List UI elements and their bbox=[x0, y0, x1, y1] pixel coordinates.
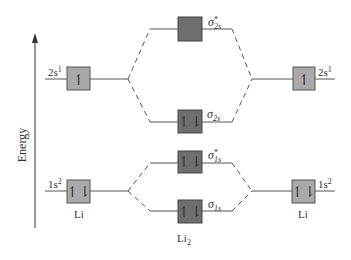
sigma-star-1s-label: σ*1s bbox=[208, 148, 221, 164]
left-atom-label: Li bbox=[74, 208, 84, 220]
left-1s-electrons: ↿⇂ bbox=[66, 184, 91, 200]
energy-axis-label: Energy bbox=[15, 128, 29, 162]
right-2s-config: 2s1 bbox=[318, 65, 332, 78]
corr-right-1s-to-sigma-1s bbox=[232, 191, 252, 211]
left-2s-config: 2s1 bbox=[48, 65, 62, 78]
left-1s-config: 1s2 bbox=[48, 177, 62, 190]
right-1s-config: 1s2 bbox=[318, 177, 332, 190]
corr-right-2s-to-sigma-2s bbox=[232, 79, 252, 122]
molecule-label: Li2 bbox=[177, 232, 191, 247]
arrow-up-icon bbox=[32, 33, 38, 43]
sigma-2s-electrons: ↿⇂ bbox=[177, 114, 202, 130]
sigma-1s-electrons: ↿⇂ bbox=[177, 204, 202, 220]
right-1s-electrons: ↿⇂ bbox=[291, 184, 316, 200]
corr-right-1s-to-sigma-star-1s bbox=[232, 163, 252, 191]
sigma-star-1s-electrons: ↿⇂ bbox=[177, 154, 202, 170]
right-2s-electrons: ↿ bbox=[298, 72, 311, 88]
corr-left-2s-to-sigma-star-2s bbox=[128, 29, 150, 79]
corr-left-2s-to-sigma-2s bbox=[128, 79, 150, 122]
molecule: σ*2s ↿⇂ σ2s ↿⇂ σ*1s ↿⇂ σ1s Li2 bbox=[150, 15, 232, 247]
right-atom-label: Li bbox=[298, 208, 308, 220]
sigma-2s-label: σ2s bbox=[207, 107, 220, 123]
sigma-1s-label: σ1s bbox=[208, 197, 221, 213]
left-atom: ↿ 2s1 ↿⇂ 1s2 Li bbox=[45, 65, 128, 220]
left-2s-electrons: ↿ bbox=[72, 72, 85, 88]
corr-left-1s-to-sigma-star-1s bbox=[128, 163, 150, 191]
corr-right-2s-to-sigma-star-2s bbox=[232, 29, 252, 79]
energy-axis: Energy bbox=[15, 33, 38, 228]
corr-left-1s-to-sigma-1s bbox=[128, 191, 150, 211]
right-atom: ↿ 2s1 ↿⇂ 1s2 Li bbox=[252, 65, 335, 220]
sigma-star-2s-box bbox=[178, 17, 202, 41]
sigma-star-2s-label: σ*2s bbox=[208, 15, 221, 31]
mo-diagram: Energy ↿ 2s1 ↿⇂ 1s2 Li ↿ 2s1 ↿⇂ 1s2 Li bbox=[0, 0, 351, 260]
